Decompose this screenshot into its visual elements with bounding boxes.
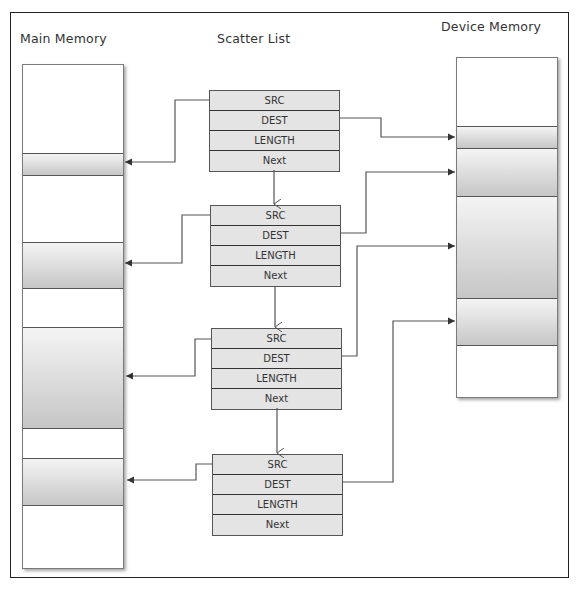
dest-arrow-3 <box>342 246 455 356</box>
dest-arrow-2 <box>340 172 455 233</box>
src-arrow-2 <box>125 215 210 263</box>
src-arrow-4 <box>127 464 212 480</box>
connector-lines <box>0 0 583 591</box>
dest-arrow-4 <box>343 321 455 482</box>
src-arrow-3 <box>126 339 211 376</box>
src-arrow-1 <box>125 100 209 162</box>
dest-arrow-1 <box>339 118 455 137</box>
